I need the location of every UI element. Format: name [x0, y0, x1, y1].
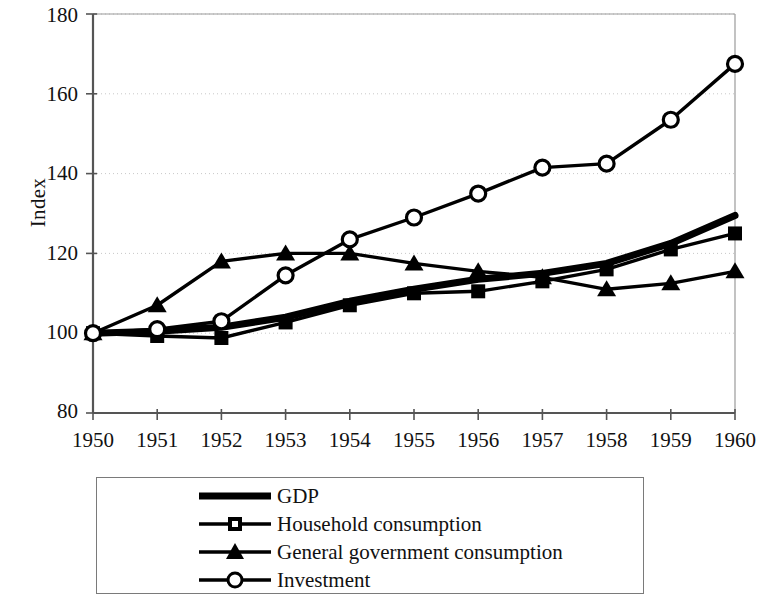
legend-label-investment: Investment	[277, 570, 370, 591]
legend-swatch-triangle-marker	[197, 541, 275, 563]
legend-item-investment[interactable]: Investment	[197, 566, 370, 594]
chart-legend: GDP Household consumption General govern…	[96, 477, 644, 594]
x-tick-label-1960: 1960	[705, 430, 760, 451]
data-point-investment-1951[interactable]	[150, 322, 165, 337]
plot-area	[0, 0, 747, 470]
data-point-investment-1956[interactable]	[471, 186, 486, 201]
x-tick-label-1959: 1959	[641, 430, 701, 451]
data-point-household-consumption-1958[interactable]	[600, 262, 614, 276]
data-point-investment-1958[interactable]	[599, 156, 614, 171]
legend-item-general-government-consumption[interactable]: General government consumption	[197, 538, 563, 566]
x-tick-label-1954: 1954	[320, 430, 380, 451]
x-tick-label-1955: 1955	[384, 430, 444, 451]
legend-label-gdp: GDP	[277, 486, 319, 507]
data-point-investment-1959[interactable]	[663, 112, 678, 127]
legend-item-gdp[interactable]: GDP	[197, 482, 319, 510]
x-tick-label-1950: 1950	[63, 430, 123, 451]
x-tick-label-1958: 1958	[577, 430, 637, 451]
x-tick-label-1956: 1956	[448, 430, 508, 451]
data-point-general-government-consumption-1960[interactable]	[726, 262, 745, 278]
data-point-investment-1953[interactable]	[278, 268, 293, 283]
x-tick-label-1953: 1953	[256, 430, 316, 451]
legend-item-household-consumption[interactable]: Household consumption	[197, 510, 482, 538]
series-line-gdp	[93, 216, 735, 334]
data-point-household-consumption-1953[interactable]	[279, 315, 293, 329]
series-layer	[84, 56, 745, 345]
data-point-household-consumption-1960[interactable]	[728, 226, 742, 240]
data-point-household-consumption-1952[interactable]	[214, 331, 228, 345]
data-point-household-consumption-1956[interactable]	[471, 284, 485, 298]
data-point-investment-1950[interactable]	[86, 326, 101, 341]
legend-swatch-open-circle-marker	[197, 569, 275, 591]
legend-label-general-government-consumption: General government consumption	[277, 542, 563, 563]
data-point-investment-1954[interactable]	[342, 232, 357, 247]
data-point-household-consumption-1959[interactable]	[664, 242, 678, 256]
data-point-household-consumption-1955[interactable]	[407, 286, 421, 300]
x-tick-label-1957: 1957	[512, 430, 572, 451]
legend-swatch-square-marker	[197, 513, 275, 535]
data-point-investment-1955[interactable]	[407, 210, 422, 225]
x-tick-label-1951: 1951	[127, 430, 187, 451]
data-point-investment-1952[interactable]	[214, 314, 229, 329]
x-tick-label-1952: 1952	[191, 430, 251, 451]
data-point-investment-1957[interactable]	[535, 160, 550, 175]
data-point-household-consumption-1954[interactable]	[343, 298, 357, 312]
data-point-investment-1960[interactable]	[728, 56, 743, 71]
legend-label-household-consumption: Household consumption	[277, 514, 482, 535]
legend-swatch-line-plain	[197, 485, 275, 507]
series-gdp	[93, 216, 735, 334]
